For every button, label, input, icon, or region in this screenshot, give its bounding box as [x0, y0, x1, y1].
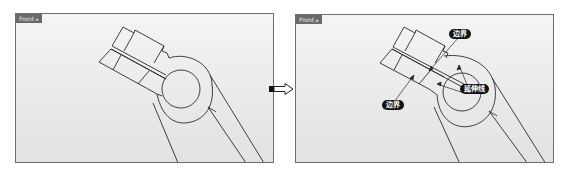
viewport-front-after[interactable]: Front▸ [295, 14, 554, 163]
wrench-drawing [16, 14, 274, 163]
arrow-right-icon [269, 83, 295, 95]
callout-boundary-top: 边界 [449, 29, 471, 39]
wrench-drawing-extended [296, 15, 554, 163]
callout-extension-line: 延伸线 [460, 84, 489, 94]
callout-boundary-bottom: 边界 [382, 100, 404, 110]
viewport-front-before[interactable]: Front▸ [15, 13, 274, 163]
